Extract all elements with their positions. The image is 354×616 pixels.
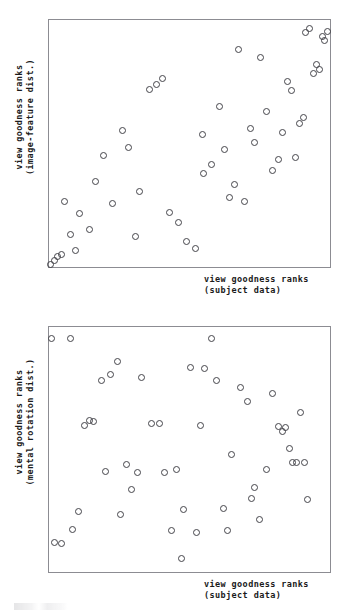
scatter-point xyxy=(288,87,295,94)
scatter-point xyxy=(263,466,270,473)
scatter-point xyxy=(54,253,61,260)
scatter-point xyxy=(275,156,282,163)
scatter-point xyxy=(193,529,200,536)
scatter-point xyxy=(251,139,258,146)
plot-frame-top xyxy=(48,19,331,268)
scatter-point xyxy=(166,209,173,216)
scatter-point xyxy=(48,335,55,342)
scatter-point xyxy=(293,459,300,466)
figure-root: view goodness ranks(image-feature dist.)… xyxy=(0,0,354,616)
scatter-point xyxy=(168,527,175,534)
scatter-point xyxy=(208,161,215,168)
scatter-point xyxy=(324,28,331,35)
scatter-point xyxy=(319,33,326,40)
scatter-point xyxy=(159,75,166,82)
x-axis-label-top: view goodness ranks(subject data) xyxy=(204,274,309,296)
scatter-point xyxy=(235,46,242,53)
scatter-point xyxy=(257,54,264,61)
scatter-point xyxy=(125,144,132,151)
scatter-point xyxy=(224,527,231,534)
scatter-point xyxy=(306,25,313,32)
scatter-point xyxy=(148,420,155,427)
scatter-point xyxy=(187,364,194,371)
scatter-point xyxy=(51,257,58,264)
y-axis-label-bottom-line2: (mental rotation dist.) xyxy=(25,324,36,520)
scatter-point xyxy=(75,508,82,515)
x-axis-label-top-line2: (subject data) xyxy=(204,285,309,296)
scatter-point xyxy=(284,78,291,85)
scatter-point xyxy=(310,70,317,77)
scatter-point xyxy=(292,154,299,161)
scatter-point xyxy=(109,200,116,207)
scatter-point xyxy=(100,152,107,159)
scatter-point xyxy=(248,495,255,502)
scatter-point xyxy=(69,526,76,533)
scatter-point xyxy=(220,505,227,512)
scatter-point xyxy=(201,365,208,372)
scatter-point xyxy=(282,424,289,431)
scatter-point xyxy=(92,178,99,185)
scatter-point xyxy=(301,459,308,466)
scatter-point xyxy=(247,125,254,132)
y-axis-label-bottom: view goodness ranks(mental rotation dist… xyxy=(14,324,36,520)
scatter-point xyxy=(228,451,235,458)
y-axis-label-bottom-line1: view goodness ranks xyxy=(14,370,24,475)
scatter-point xyxy=(128,486,135,493)
scatter-point xyxy=(183,238,190,245)
y-axis-label-top-line2: (image-feature dist.) xyxy=(25,19,36,215)
scatter-panel-image-feature: view goodness ranks(image-feature dist.)… xyxy=(0,0,354,308)
scatter-point xyxy=(269,167,276,174)
scatter-point xyxy=(114,358,121,365)
scatter-point xyxy=(156,420,163,427)
x-axis-label-bottom-line2: (subject data) xyxy=(204,590,309,601)
scatter-points-bottom xyxy=(49,327,330,572)
scatter-point xyxy=(47,261,54,268)
scatter-point xyxy=(279,428,286,435)
scatter-point xyxy=(321,37,328,44)
scatter-point xyxy=(58,540,65,547)
scatter-point xyxy=(221,146,228,153)
scatter-point xyxy=(178,555,185,562)
scatter-point xyxy=(226,194,233,201)
x-axis-label-top-line1: view goodness ranks xyxy=(204,274,309,284)
scatter-point xyxy=(117,511,124,518)
scatter-point xyxy=(86,417,93,424)
plot-frame-bottom xyxy=(48,326,331,573)
scatter-point xyxy=(134,469,141,476)
scatter-point xyxy=(81,422,88,429)
scatter-point xyxy=(161,469,168,476)
scatter-point xyxy=(102,468,109,475)
scatter-points-top xyxy=(49,20,330,267)
scatter-point xyxy=(132,233,139,240)
scatter-point xyxy=(251,484,258,491)
page-artifact-smudge xyxy=(14,603,68,610)
x-axis-label-bottom-line1: view goodness ranks xyxy=(204,579,309,589)
scatter-point xyxy=(304,496,311,503)
scatter-point xyxy=(241,198,248,205)
scatter-point xyxy=(269,390,276,397)
scatter-point xyxy=(231,181,238,188)
y-axis-label-top: view goodness ranks(image-feature dist.) xyxy=(14,19,36,215)
scatter-point xyxy=(313,61,320,68)
scatter-point xyxy=(279,129,286,136)
scatter-point xyxy=(289,459,296,466)
scatter-point xyxy=(67,231,74,238)
scatter-point xyxy=(123,461,130,468)
scatter-point xyxy=(180,506,187,513)
scatter-point xyxy=(72,247,79,254)
scatter-point xyxy=(256,516,263,523)
scatter-point xyxy=(61,198,68,205)
scatter-point xyxy=(316,66,323,73)
scatter-point xyxy=(237,384,244,391)
scatter-point xyxy=(119,127,126,134)
scatter-point xyxy=(98,377,105,384)
scatter-point xyxy=(76,210,83,217)
scatter-point xyxy=(175,219,182,226)
scatter-point xyxy=(244,398,251,405)
scatter-point xyxy=(136,188,143,195)
scatter-point xyxy=(146,86,153,93)
scatter-point xyxy=(58,251,65,258)
scatter-point xyxy=(107,371,114,378)
x-axis-label-bottom: view goodness ranks(subject data) xyxy=(204,579,309,601)
scatter-point xyxy=(208,335,215,342)
